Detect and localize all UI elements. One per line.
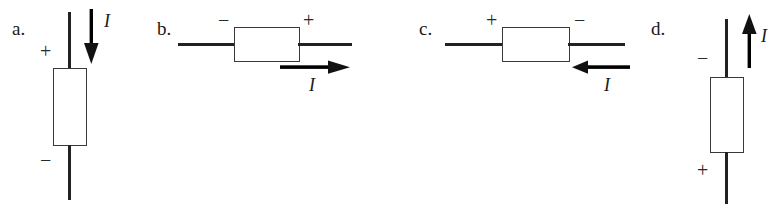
panel-c-label: c. xyxy=(419,19,432,38)
panel-d-top-lead-wire xyxy=(725,19,728,78)
panel-c-right-lead-wire xyxy=(568,43,625,46)
panel-d-minus-sign: − xyxy=(697,48,708,68)
panel-a-component-box xyxy=(53,68,87,146)
panel-c-plus-sign: + xyxy=(486,10,497,30)
panel-d: d. − + I xyxy=(642,0,779,216)
panel-b-plus-sign: + xyxy=(303,10,314,30)
panel-b-current-label: I xyxy=(309,76,315,94)
panel-b-label: b. xyxy=(157,19,171,38)
panel-a-top-lead-wire xyxy=(68,12,71,69)
panel-a: a. + − I xyxy=(0,0,150,216)
circuit-figure: a. + − I b. − + xyxy=(0,0,779,216)
panel-a-bottom-lead-wire xyxy=(68,145,71,200)
panel-d-plus-sign: + xyxy=(697,160,708,180)
panel-d-component-box xyxy=(710,77,744,153)
panel-d-current-label: I xyxy=(761,27,767,45)
panel-b-component-box xyxy=(234,27,300,62)
panel-c-current-arrow-left-icon xyxy=(572,58,630,80)
panel-c-current-label: I xyxy=(604,76,610,94)
panel-c-minus-sign: − xyxy=(574,10,585,30)
panel-b-current-arrow-right-icon xyxy=(280,58,352,80)
panel-d-bottom-lead-wire xyxy=(725,152,728,204)
panel-c: c. + − I xyxy=(412,0,642,216)
panel-c-component-box xyxy=(502,27,570,62)
panel-a-current-label: I xyxy=(104,12,110,30)
panel-b-right-lead-wire xyxy=(298,43,352,46)
panel-a-plus-sign: + xyxy=(40,41,51,61)
panel-b: b. − + I xyxy=(150,0,380,216)
panel-a-minus-sign: − xyxy=(40,150,51,170)
panel-b-minus-sign: − xyxy=(218,10,229,30)
panel-a-label: a. xyxy=(12,19,25,38)
panel-b-left-lead-wire xyxy=(178,43,236,46)
panel-d-label: d. xyxy=(651,19,665,38)
panel-d-current-arrow-up-icon xyxy=(740,14,762,70)
panel-c-left-lead-wire xyxy=(445,43,503,46)
panel-a-current-arrow-down-icon xyxy=(82,9,104,65)
